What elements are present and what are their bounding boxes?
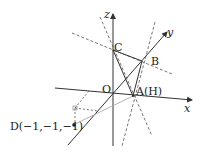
point-a (132, 95, 134, 97)
point-d-label: D(−1,−1,−1) (10, 120, 83, 133)
dashed-d-horizontal (75, 108, 98, 111)
point-o-label: O (102, 83, 111, 96)
coordinate-diagram: z x y C B O A(H) D(−1,−1,−1) (0, 0, 201, 159)
dashed-line-ca (100, 17, 152, 136)
z-axis-label: z (103, 8, 110, 21)
dashed-line-ba (122, 22, 155, 146)
point-a-label: A(H) (135, 85, 162, 98)
point-b-label: B (151, 55, 159, 68)
point-c-label: C (114, 41, 122, 54)
line-da (75, 96, 133, 124)
x-axis-label: x (184, 102, 191, 115)
dashed-d-diag (75, 91, 89, 108)
x-axis (55, 88, 192, 100)
y-axis-label: y (166, 26, 174, 39)
